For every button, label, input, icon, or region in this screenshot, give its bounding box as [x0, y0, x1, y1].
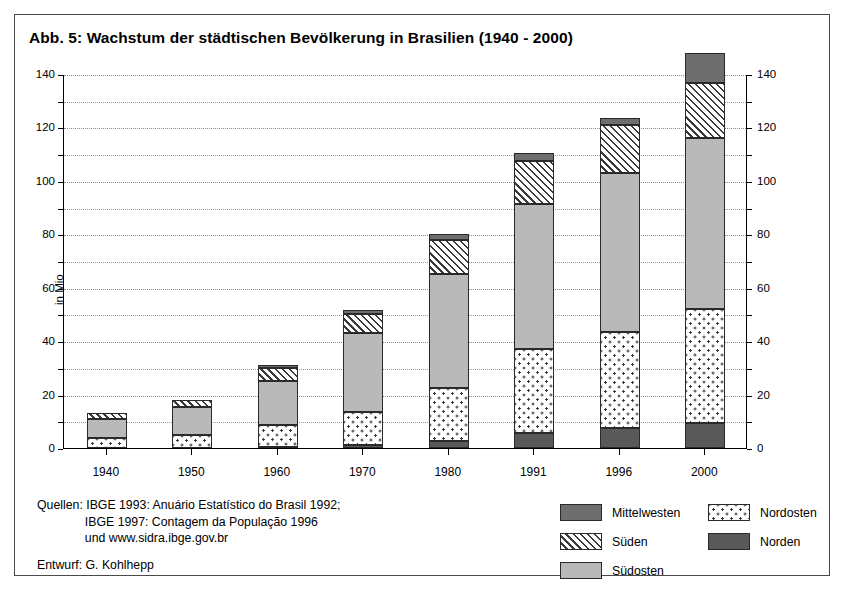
y-axis-tick — [747, 342, 752, 343]
bar-segment-sueden[interactable] — [429, 240, 469, 275]
gridline — [64, 155, 746, 156]
y-axis-tick — [58, 396, 63, 397]
bar-segment-nordosten[interactable] — [172, 435, 212, 448]
gridline — [64, 315, 746, 316]
gridline — [64, 262, 746, 263]
y-axis-tick — [747, 449, 752, 450]
y-axis-tick — [747, 235, 752, 236]
y-axis-tick-label-left: 140 — [19, 69, 55, 81]
legend-item-nordosten[interactable]: Nordosten — [708, 504, 817, 521]
bar-1970[interactable] — [343, 74, 383, 448]
x-axis-tick — [277, 449, 278, 455]
y-axis-tick — [58, 262, 63, 263]
gridline — [64, 422, 746, 423]
bar-1991[interactable] — [514, 74, 554, 448]
sources-text: Quellen: IBGE 1993: Anuário Estatístico … — [37, 497, 341, 547]
bar-2000[interactable] — [685, 74, 725, 448]
bar-segment-sueden[interactable] — [600, 125, 640, 173]
bar-segment-norden[interactable] — [600, 428, 640, 448]
bar-segment-sueden[interactable] — [258, 368, 298, 381]
bar-segment-suedosten[interactable] — [600, 173, 640, 332]
bar-segment-nordosten[interactable] — [343, 412, 383, 445]
bar-segment-mittelwesten[interactable] — [514, 153, 554, 161]
y-axis-tick-label-left: 120 — [19, 122, 55, 134]
y-axis-tick-label-right: 100 — [757, 176, 793, 188]
y-axis-tick — [747, 315, 752, 316]
bar-segment-mittelwesten[interactable] — [343, 310, 383, 314]
legend-label-mittelwesten: Mittelwesten — [612, 506, 680, 520]
bar-segment-mittelwesten[interactable] — [429, 234, 469, 239]
bar-segment-norden[interactable] — [343, 445, 383, 448]
y-axis-tick — [747, 209, 752, 210]
bar-segment-suedosten[interactable] — [87, 419, 127, 438]
legend-label-suedosten: Südosten — [612, 564, 664, 578]
x-axis-tick — [704, 449, 705, 455]
y-axis-tick — [58, 235, 63, 236]
bar-segment-suedosten[interactable] — [514, 204, 554, 350]
bar-segment-nordosten[interactable] — [258, 425, 298, 446]
y-axis-tick — [747, 262, 752, 263]
bar-segment-suedosten[interactable] — [172, 407, 212, 435]
bar-segment-mittelwesten[interactable] — [600, 118, 640, 125]
gridline — [64, 289, 746, 290]
y-axis-tick — [58, 449, 63, 450]
bar-segment-sueden[interactable] — [514, 161, 554, 204]
gridline — [64, 102, 746, 103]
x-axis-tick-label: 1996 — [579, 465, 659, 479]
bar-segment-nordosten[interactable] — [600, 332, 640, 428]
gridline — [64, 128, 746, 129]
bar-1940[interactable] — [87, 74, 127, 448]
legend-label-sueden: Süden — [612, 535, 648, 549]
plot-area: in Mio 002020404060608080100100120120140… — [15, 15, 831, 577]
y-axis-tick-label-right: 80 — [757, 229, 793, 241]
y-axis-tick-label-left: 0 — [19, 443, 55, 455]
y-axis-tick-label-right: 140 — [757, 69, 793, 81]
bar-segment-suedosten[interactable] — [685, 138, 725, 309]
gridline — [64, 75, 746, 76]
figure-frame: Abb. 5: Wachstum der städtischen Bevölke… — [14, 14, 830, 576]
gridline — [64, 182, 746, 183]
legend-item-norden[interactable]: Norden — [708, 533, 800, 550]
x-axis-tick-label: 1940 — [66, 465, 146, 479]
bar-segment-norden[interactable] — [685, 423, 725, 448]
bar-1960[interactable] — [258, 74, 298, 448]
bar-segment-suedosten[interactable] — [343, 333, 383, 412]
y-axis-tick — [58, 102, 63, 103]
bar-segment-nordosten[interactable] — [87, 438, 127, 448]
y-axis-tick-label-right: 20 — [757, 390, 793, 402]
legend-swatch-nordosten — [708, 504, 750, 521]
y-axis-tick-label-right: 0 — [757, 443, 793, 455]
bar-segment-sueden[interactable] — [87, 413, 127, 418]
y-axis-tick-label-left: 20 — [19, 390, 55, 402]
bar-segment-nordosten[interactable] — [429, 388, 469, 441]
bar-segment-norden[interactable] — [514, 433, 554, 448]
bar-segment-nordosten[interactable] — [685, 309, 725, 423]
x-axis-tick — [448, 449, 449, 455]
x-axis-tick-label: 1970 — [322, 465, 402, 479]
y-axis-tick-label-right: 40 — [757, 336, 793, 348]
bar-segment-sueden[interactable] — [172, 400, 212, 407]
x-axis-tick-label: 1980 — [408, 465, 488, 479]
bar-1980[interactable] — [429, 74, 469, 448]
bar-1950[interactable] — [172, 74, 212, 448]
bar-segment-mittelwesten[interactable] — [685, 53, 725, 84]
bar-segment-suedosten[interactable] — [429, 274, 469, 388]
bar-segment-sueden[interactable] — [343, 314, 383, 333]
bar-segment-suedosten[interactable] — [258, 381, 298, 425]
bar-segment-nordosten[interactable] — [514, 349, 554, 433]
legend-swatch-mittelwesten — [560, 504, 602, 521]
y-axis-tick — [747, 422, 752, 423]
y-axis-tick — [58, 128, 63, 129]
legend-swatch-suedosten — [560, 562, 602, 579]
bar-segment-mittelwesten[interactable] — [258, 365, 298, 368]
legend-item-sueden[interactable]: Süden — [560, 533, 648, 550]
bar-segment-sueden[interactable] — [685, 83, 725, 138]
legend-item-suedosten[interactable]: Südosten — [560, 562, 664, 579]
bar-1996[interactable] — [600, 74, 640, 448]
y-axis-tick — [747, 155, 752, 156]
bar-segment-norden[interactable] — [429, 441, 469, 448]
y-axis-tick-label-left: 80 — [19, 229, 55, 241]
y-axis-tick — [58, 369, 63, 370]
legend-item-mittelwesten[interactable]: Mittelwesten — [560, 504, 680, 521]
y-axis-tick — [747, 289, 752, 290]
